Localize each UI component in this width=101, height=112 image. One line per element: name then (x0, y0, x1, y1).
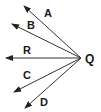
ray-label-a: A (44, 7, 52, 19)
ray-label-b: B (27, 19, 35, 31)
rays-svg: ABRCD Q (0, 0, 101, 112)
ray-label-d: D (40, 96, 48, 108)
ray-a-arrow (24, 6, 81, 58)
ray-label-r: R (23, 44, 31, 56)
ray-d-arrow (25, 58, 81, 108)
vertex-label-q: Q (85, 52, 94, 66)
rays-diagram: ABRCD Q (0, 0, 101, 112)
ray-label-c: C (23, 69, 31, 81)
rays-group (6, 6, 81, 108)
